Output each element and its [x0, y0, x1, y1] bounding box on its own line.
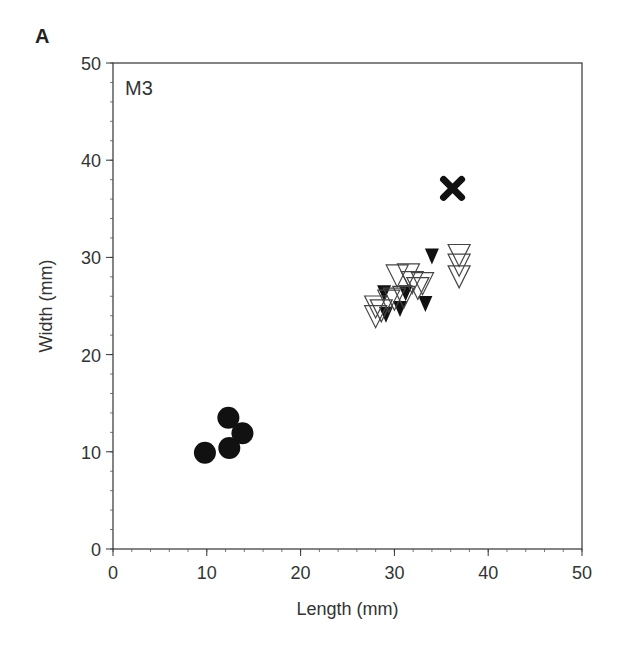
open-triangle-marker	[386, 265, 408, 287]
y-tick-label: 30	[81, 248, 101, 268]
x-tick-label: 30	[384, 563, 404, 583]
y-axis-label: Width (mm)	[36, 260, 56, 353]
x-marker	[444, 179, 462, 197]
y-tick-label: 10	[81, 443, 101, 463]
y-tick-label: 0	[91, 540, 101, 560]
filled-triangle-marker	[425, 248, 439, 264]
x-tick-label: 40	[478, 563, 498, 583]
circle-marker	[194, 442, 216, 464]
y-tick-label: 20	[81, 346, 101, 366]
open-triangle-marker	[448, 244, 470, 266]
scatter-chart: 0102030405001020304050Length (mm)Width (…	[0, 0, 618, 650]
filled-triangle-marker	[418, 296, 432, 312]
plot-frame	[113, 63, 582, 549]
x-tick-label: 0	[108, 563, 118, 583]
y-tick-label: 40	[81, 151, 101, 171]
x-tick-label: 20	[291, 563, 311, 583]
plot-annotation: M3	[125, 77, 153, 99]
y-tick-label: 50	[81, 54, 101, 74]
x-tick-label: 50	[572, 563, 592, 583]
x-tick-label: 10	[197, 563, 217, 583]
circle-marker	[218, 437, 240, 459]
x-axis-label: Length (mm)	[296, 599, 398, 619]
